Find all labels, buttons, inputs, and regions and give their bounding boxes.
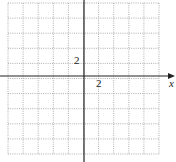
x-axis-label: x (168, 77, 174, 89)
y-tick-label: 2 (74, 54, 80, 66)
x-tick-label: 2 (96, 77, 102, 89)
coordinate-grid: 2 2 x (0, 0, 176, 162)
